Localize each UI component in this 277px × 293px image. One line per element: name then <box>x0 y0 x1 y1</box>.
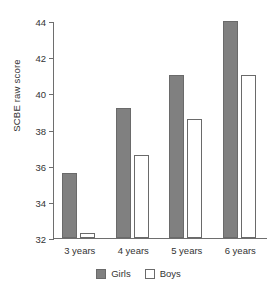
legend-entry-boys[interactable]: Boys <box>145 268 181 279</box>
x-tick-label-5-years: 5 years <box>171 245 202 256</box>
y-tick-mark <box>49 167 53 168</box>
y-axis-line <box>53 22 54 240</box>
y-tick-mark <box>49 131 53 132</box>
legend-label: Girls <box>111 268 131 279</box>
y-axis-title: SCBE raw score <box>11 36 22 156</box>
bar-boys-4-years[interactable] <box>134 155 149 238</box>
scbe-raw-score-bar-chart: SCBE raw score 32343638404244 3 years4 y… <box>0 0 277 293</box>
x-tick-label-6-years: 6 years <box>225 245 256 256</box>
y-tick-label: 34 <box>35 197 46 208</box>
x-tick-label-3-years: 3 years <box>64 245 95 256</box>
bar-boys-5-years[interactable] <box>187 119 202 238</box>
x-axis-line <box>53 238 267 239</box>
bar-group-5-years <box>169 21 203 238</box>
legend-label: Boys <box>160 268 181 279</box>
y-tick-mark <box>49 239 53 240</box>
x-tick-label-4-years: 4 years <box>118 245 149 256</box>
bar-group-6-years <box>223 21 257 238</box>
y-tick-mark <box>49 94 53 95</box>
filled-square-icon <box>96 269 106 279</box>
y-tick-mark <box>49 58 53 59</box>
y-tick-label: 42 <box>35 53 46 64</box>
bar-girls-4-years[interactable] <box>116 108 131 238</box>
y-tick-mark <box>49 22 53 23</box>
bar-boys-3-years[interactable] <box>80 233 95 238</box>
y-tick-label: 36 <box>35 161 46 172</box>
plot-area: 32343638404244 <box>53 22 267 239</box>
y-tick-label: 44 <box>35 17 46 28</box>
y-tick-label: 38 <box>35 125 46 136</box>
bar-boys-6-years[interactable] <box>241 75 256 238</box>
bar-group-4-years <box>116 21 150 238</box>
bar-girls-5-years[interactable] <box>169 75 184 238</box>
y-tick-mark <box>49 203 53 204</box>
bar-girls-6-years[interactable] <box>223 21 238 238</box>
open-square-icon <box>145 269 155 279</box>
chart-legend: GirlsBoys <box>0 268 277 279</box>
bar-group-3-years <box>62 21 96 238</box>
y-tick-label: 40 <box>35 89 46 100</box>
legend-entry-girls[interactable]: Girls <box>96 268 131 279</box>
bar-girls-3-years[interactable] <box>62 173 77 238</box>
y-tick-label: 32 <box>35 234 46 245</box>
